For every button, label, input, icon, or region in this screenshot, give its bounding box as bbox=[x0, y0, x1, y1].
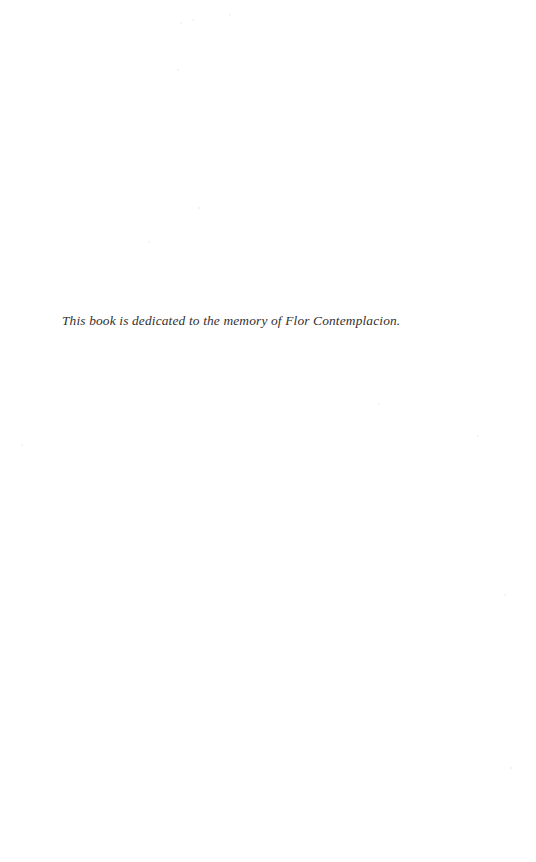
scan-speck bbox=[180, 22, 182, 24]
scan-speck bbox=[443, 236, 444, 237]
scan-speck bbox=[85, 668, 86, 669]
scan-speck bbox=[177, 69, 179, 71]
scan-speck bbox=[148, 241, 150, 243]
scan-speck bbox=[510, 767, 512, 769]
scan-speck bbox=[198, 207, 200, 209]
scan-speck bbox=[172, 26, 173, 27]
scan-speck bbox=[64, 520, 65, 521]
scan-speck bbox=[404, 100, 405, 101]
scan-speck bbox=[300, 118, 301, 119]
dedication-text: This book is dedicated to the memory of … bbox=[62, 311, 482, 330]
scan-speck bbox=[477, 435, 479, 437]
scan-speck bbox=[192, 19, 194, 21]
document-page: This book is dedicated to the memory of … bbox=[0, 0, 536, 862]
scan-speck bbox=[378, 403, 380, 405]
scan-speck bbox=[21, 444, 23, 446]
scan-speck bbox=[157, 550, 158, 551]
scan-speck bbox=[504, 594, 506, 596]
scan-speck bbox=[229, 14, 231, 16]
